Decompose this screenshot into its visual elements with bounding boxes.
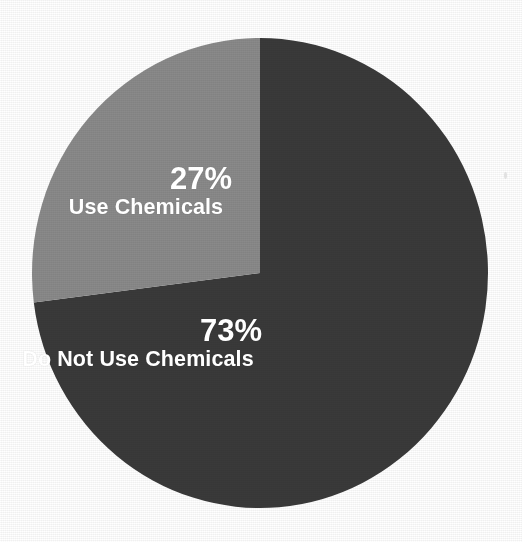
pie-label-do-not-use-chemicals-value: 73% (0, 315, 276, 347)
pie-chart-figure: 27% Use Chemicals 73% Do Not Use Chemica… (0, 0, 522, 542)
pie-label-do-not-use-chemicals-name: Do Not Use Chemicals (0, 348, 276, 370)
scan-speck-artifact (504, 172, 507, 179)
pie-chart-canvas (0, 0, 522, 542)
pie-label-use-chemicals-value: 27% (40, 163, 260, 195)
pie-label-use-chemicals-name: Use Chemicals (40, 196, 260, 218)
pie-label-use-chemicals: 27% Use Chemicals (40, 163, 260, 219)
pie-label-do-not-use-chemicals: 73% Do Not Use Chemicals (0, 315, 276, 371)
